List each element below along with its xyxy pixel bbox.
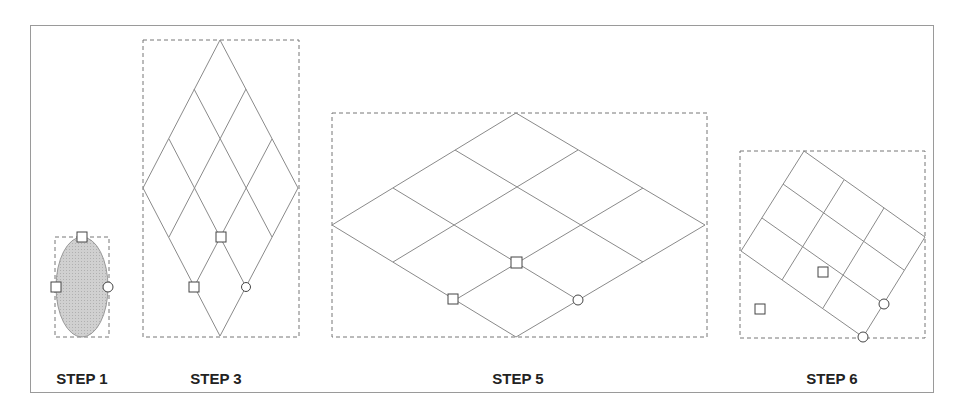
step1-group: [51, 232, 113, 337]
square-handle: [77, 232, 87, 242]
square-handle: [216, 232, 226, 242]
step6-label: STEP 6: [806, 370, 857, 387]
circle-handle: [858, 332, 868, 342]
square-handle: [189, 282, 199, 292]
diagram-canvas: [0, 0, 965, 415]
square-handle: [448, 294, 458, 304]
square-handle: [755, 304, 765, 314]
circle-handle: [573, 295, 583, 305]
circle-handle: [103, 282, 113, 292]
circle-handle: [242, 283, 251, 292]
step3-group: [143, 40, 299, 337]
circle-handle: [879, 299, 889, 309]
step5-label: STEP 5: [492, 370, 543, 387]
square-handle: [818, 267, 828, 277]
square-handle: [51, 282, 61, 292]
step1-label: STEP 1: [56, 370, 107, 387]
square-handle: [511, 257, 522, 268]
step5-group: [332, 113, 707, 337]
step3-label: STEP 3: [190, 370, 241, 387]
step6-group: [740, 151, 925, 342]
